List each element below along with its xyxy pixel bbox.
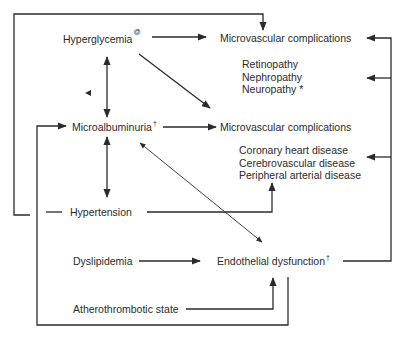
microvascular-list: Retinopathy Nephropathy Neuropathy * [242,58,303,96]
node-endothelial: Endothelial dysfunction† [217,255,330,267]
node-microvascular-middle: Microvascular complications [220,121,351,133]
node-microvascular-top: Microvascular complications [220,32,351,44]
node-microvascular-top-label: Microvascular complications [220,32,351,44]
list-item-neuropathy: Neuropathy * [242,83,303,96]
node-microalbuminuria: Microalbuminuria† [72,121,157,133]
macrovascular-list: Coronary heart disease Cerebrovascular d… [239,144,361,182]
node-dyslipidemia-label: Dyslipidemia [73,255,133,267]
list-item-retinopathy: Retinopathy [242,58,303,71]
edge-athero-to-endothelial [186,278,273,309]
node-hyperglycemia: Hyperglycemia@ [63,33,141,45]
list-item-nephropathy: Nephropathy [242,71,303,84]
node-dyslipidemia: Dyslipidemia [73,255,133,267]
node-microalbuminuria-sup: † [153,120,157,127]
node-microalbuminuria-label: Microalbuminuria [72,121,152,133]
stray-arrowhead-icon [85,90,91,96]
node-endothelial-sup: † [326,254,330,261]
node-atherothrombotic: Atherothrombotic state [73,303,179,315]
list-item-coronary: Coronary heart disease [239,144,361,157]
node-hypertension: Hypertension [70,206,132,218]
list-item-cerebrovascular: Cerebrovascular disease [239,157,361,170]
list-item-peripheral: Peripheral arterial disease [239,169,361,182]
node-hypertension-label: Hypertension [70,206,132,218]
diagram-canvas: Hyperglycemia@ Microvascular complicatio… [0,0,406,341]
edge-hypertension-to-macro [147,183,272,212]
edge-hyper-to-micro2 [139,54,210,108]
node-microvascular-middle-label: Microvascular complications [220,121,351,133]
node-endothelial-label: Endothelial dysfunction [217,255,325,267]
node-atherothrombotic-label: Atherothrombotic state [73,303,179,315]
node-hyperglycemia-sup: @ [133,28,140,35]
node-hyperglycemia-label: Hyperglycemia [63,33,132,45]
